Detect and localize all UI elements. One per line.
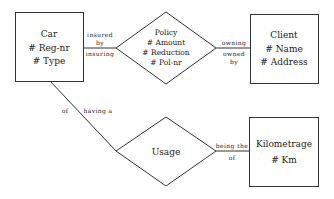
connector-car-usage	[50, 81, 116, 151]
entity-client-name: Client	[270, 30, 298, 40]
entity-car-name: Car	[41, 29, 58, 39]
entity-car-attr-regnr: # Reg-nr	[28, 43, 70, 53]
entity-car-attr-type: # Type	[33, 56, 66, 66]
entity-kilometrage-name: Kilometrage	[256, 139, 312, 149]
relationship-policy-attr-polnr: # Pol-nr	[150, 58, 182, 67]
role-having-a: having a	[83, 107, 112, 115]
role-by: by	[96, 39, 104, 47]
entity-client-attr-name: # Name	[265, 44, 303, 54]
er-diagram: Car # Reg-nr # Type Client # Name # Addr…	[0, 0, 334, 199]
relationship-policy-name: Policy	[155, 28, 178, 37]
role-owned: owned	[223, 50, 245, 57]
role-being-the: being the	[216, 142, 248, 150]
entity-kilometrage-attr-km: # Km	[271, 155, 297, 165]
role-of-km: of	[229, 154, 236, 161]
role-insuring: insuring	[86, 50, 114, 58]
role-owned-by: by	[230, 58, 238, 66]
role-of-car: of	[62, 107, 69, 114]
relationship-policy-attr-reduction: # Reduction	[142, 48, 190, 57]
relationship-policy-attr-amount: # Amount	[147, 38, 185, 47]
entity-client-attr-address: # Address	[260, 57, 308, 67]
entity-kilometrage-box[interactable]	[250, 118, 319, 187]
role-insured: insured	[87, 31, 113, 38]
relationship-usage-name: Usage	[152, 147, 181, 157]
role-owning: owning	[222, 39, 247, 47]
